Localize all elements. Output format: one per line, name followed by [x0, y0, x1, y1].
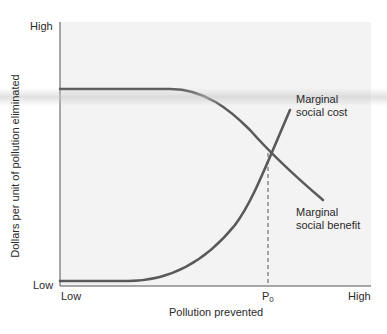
- x-low-label: Low: [61, 290, 81, 303]
- p0-subscript: 0: [269, 295, 273, 304]
- msc-label-line1: Marginal: [296, 93, 338, 106]
- x-high-label: High: [348, 290, 371, 303]
- chart-svg: [0, 0, 387, 334]
- x-p0-label: P0: [262, 290, 274, 306]
- msb-label-line1: Marginal: [296, 206, 338, 219]
- x-axis-title: Pollution prevented: [169, 306, 263, 319]
- msb-label-line2: social benefit: [296, 219, 360, 232]
- y-high-label: High: [30, 20, 53, 33]
- y-low-label: Low: [33, 279, 53, 292]
- y-axis-title: Dollars per unit of pollution eliminated: [9, 71, 21, 261]
- msc-label-line2: social cost: [296, 106, 347, 119]
